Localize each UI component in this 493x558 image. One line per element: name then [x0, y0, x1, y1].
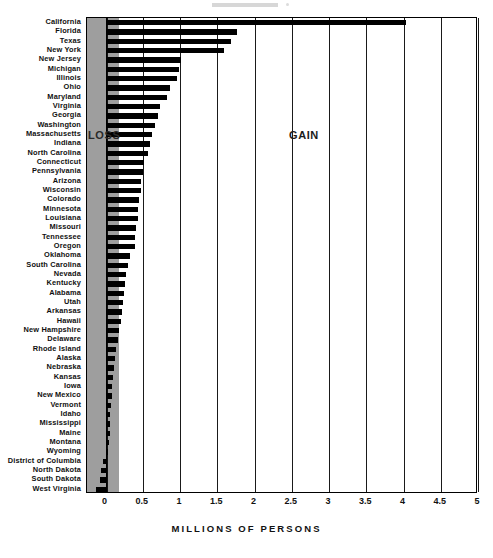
category-label: New York	[47, 45, 81, 54]
category-label: District of Columbia	[8, 456, 81, 465]
bar	[106, 39, 232, 44]
bar	[106, 57, 181, 62]
bar-row	[87, 475, 476, 484]
bar-row	[87, 447, 476, 456]
category-label: Minnesota	[43, 204, 81, 213]
bar-row	[87, 93, 476, 102]
bar	[106, 253, 131, 258]
bar	[106, 85, 170, 90]
bar-row	[87, 307, 476, 316]
bar	[106, 216, 138, 221]
category-label: Nevada	[54, 269, 81, 278]
bar	[106, 440, 110, 445]
category-label: West Virginia	[33, 484, 82, 493]
x-tick-label: 3	[326, 496, 331, 506]
bar-row	[87, 65, 476, 74]
category-label: Alabama	[49, 288, 81, 297]
bar-row	[87, 251, 476, 260]
bar-row	[87, 345, 476, 354]
bar	[106, 300, 123, 305]
plot-area: LOSS GAIN	[86, 17, 477, 493]
category-label: Colorado	[47, 194, 81, 203]
bar-row	[87, 111, 476, 120]
bar	[106, 48, 224, 53]
bar-row	[87, 242, 476, 251]
x-tick-label: 4.5	[433, 496, 446, 506]
category-label: Missouri	[49, 222, 81, 231]
bar-row	[87, 373, 476, 382]
bar-row	[87, 186, 476, 195]
category-label: Kansas	[54, 372, 81, 381]
category-label: California	[45, 17, 81, 26]
bar-row	[87, 261, 476, 270]
category-label: Vermont	[50, 400, 81, 409]
category-label: South Carolina	[26, 260, 81, 269]
x-tick-label: 2	[251, 496, 256, 506]
category-label: Maryland	[47, 92, 81, 101]
x-tick-label: 1	[177, 496, 182, 506]
bar-row	[87, 391, 476, 400]
bar-row	[87, 317, 476, 326]
bar	[106, 113, 159, 118]
bar	[106, 169, 143, 174]
bar-row	[87, 270, 476, 279]
category-label: Iowa	[64, 381, 81, 390]
bar-row	[87, 167, 476, 176]
bar	[106, 421, 110, 426]
category-label: Hawaii	[57, 316, 81, 325]
category-label: Arizona	[53, 176, 81, 185]
bar	[106, 272, 126, 277]
category-label: Maine	[59, 428, 81, 437]
category-label: Ohio	[64, 82, 81, 91]
category-label: Louisiana	[45, 213, 81, 222]
bar	[106, 263, 128, 268]
bar-row	[87, 130, 476, 139]
category-label: Nebraska	[47, 362, 81, 371]
population-change-bar-chart: CaliforniaFloridaTexasNew YorkNew Jersey…	[0, 0, 493, 558]
gridline-5	[478, 18, 479, 492]
bar-row	[87, 289, 476, 298]
bar-row	[87, 382, 476, 391]
bar	[106, 319, 121, 324]
bar	[106, 393, 112, 398]
bar	[106, 449, 108, 454]
x-tick-label: 0	[102, 496, 107, 506]
category-label: North Carolina	[28, 148, 81, 157]
bar	[106, 160, 144, 165]
bar	[106, 431, 110, 436]
bar	[106, 197, 140, 202]
x-tick-label: 1.5	[210, 496, 223, 506]
category-label: Rhode Island	[33, 344, 81, 353]
category-label: Oklahoma	[44, 250, 81, 259]
bar	[106, 225, 137, 230]
bar-row	[87, 410, 476, 419]
category-label: Tennessee	[42, 232, 81, 241]
scan-artifact-mark	[212, 3, 278, 7]
bar-row	[87, 223, 476, 232]
category-label: Texas	[60, 36, 81, 45]
x-tick-label: 2.5	[285, 496, 298, 506]
category-label: Georgia	[52, 110, 81, 119]
category-label: Kentucky	[47, 278, 81, 287]
bar-row	[87, 429, 476, 438]
bar	[103, 459, 106, 464]
bar-row	[87, 74, 476, 83]
bar	[106, 123, 155, 128]
bar	[106, 347, 116, 352]
bar	[106, 29, 237, 34]
bar	[106, 337, 118, 342]
bar	[96, 487, 106, 492]
bar-row	[87, 298, 476, 307]
bar	[106, 328, 119, 333]
category-label: Wisconsin	[43, 185, 81, 194]
category-label: Connecticut	[37, 157, 81, 166]
bar-row	[87, 27, 476, 36]
category-label: New Hampshire	[24, 325, 81, 334]
x-tick-label: 4	[400, 496, 405, 506]
scan-artifact-dot	[286, 3, 289, 6]
bar-row	[87, 37, 476, 46]
bar-row	[87, 121, 476, 130]
category-label: South Dakota	[32, 474, 81, 483]
bar	[106, 375, 113, 380]
bar-row	[87, 83, 476, 92]
